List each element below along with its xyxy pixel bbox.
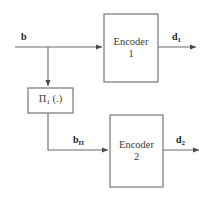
signal-input-b-symbol: b	[21, 31, 27, 42]
block-label-interleaver-1: Π1 (.)	[28, 93, 73, 105]
interleaver-subscript: 1	[46, 98, 50, 106]
signal-label-output-d1: d1	[172, 31, 181, 42]
signal-label-interleaved-b: bΠ	[73, 134, 84, 145]
block-diagram-canvas: Encoder 1 Π1 (.) Encoder 2 b bΠ d1 d2	[0, 0, 207, 199]
signal-label-output-d2: d2	[176, 134, 185, 145]
signal-output-d1-symbol: d	[172, 31, 178, 42]
interleaver-suffix: (.)	[50, 93, 62, 104]
encoder-2-line-1: Encoder	[119, 139, 154, 150]
encoder-1-line-2: 1	[104, 48, 158, 60]
encoder-1-line-1: Encoder	[114, 36, 149, 47]
block-label-encoder-1: Encoder 1	[104, 36, 158, 60]
encoder-2-line-2: 2	[110, 151, 163, 163]
signal-output-d1-subscript: 1	[178, 36, 182, 44]
block-label-encoder-2: Encoder 2	[110, 139, 163, 163]
signal-label-input-b: b	[21, 31, 27, 42]
signal-output-d2-subscript: 2	[182, 139, 186, 147]
signal-interleaved-b-subscript: Π	[79, 139, 84, 147]
signal-interleaved-b-symbol: b	[73, 134, 79, 145]
signal-output-d2-symbol: d	[176, 134, 182, 145]
